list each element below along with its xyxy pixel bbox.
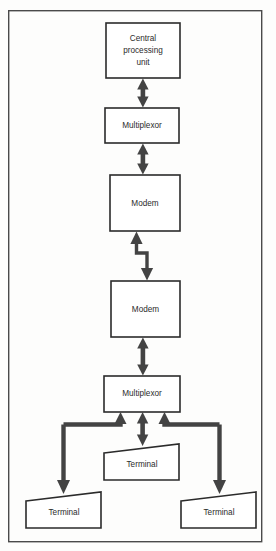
modem-bottom-label: Modem [132,305,159,314]
cpu-label-line-2: processing [123,46,163,55]
node-terminal-left: Terminal [26,492,101,528]
elbow-path-in [165,418,220,425]
terminal-left-label: Terminal [49,508,80,517]
arrow-head-up [159,412,171,424]
connector-multiplexor-top-to-modem-top [137,143,148,174]
terminal-center-label: Terminal [127,460,158,469]
network-topology-diagram: Central processing unit Multiplexor Mode… [0,0,276,551]
terminal-right-label: Terminal [204,508,235,517]
zigzag-path [137,240,148,271]
arrow-head-down [137,97,148,108]
arrow-head-down [137,365,148,376]
node-terminal-center: Terminal [104,444,179,480]
connector-modem-to-modem-link [130,232,153,281]
node-modem-top: Modem [110,175,180,231]
diagram-canvas: Central processing unit Multiplexor Mode… [0,0,276,551]
arrow-head-up [137,412,148,424]
modem-top-label: Modem [131,199,158,208]
connector-cpu-to-multiplexor-top [137,78,148,107]
cpu-label-line-1: Central [130,34,157,43]
node-terminal-right: Terminal [181,492,256,528]
node-multiplexor-bottom: Multiplexor [104,376,180,412]
arrow-head-up [137,143,148,154]
connector-modem-bottom-to-multiplexor-bottom [137,337,148,375]
multiplexor-top-label: Multiplexor [122,121,162,130]
arrow-head-up [137,78,148,89]
arrow-head-up [130,232,142,245]
connector-multiplexor-bottom-to-terminal-center [137,412,148,446]
arrow-head-down [137,164,148,175]
node-multiplexor-top: Multiplexor [105,108,179,143]
multiplexor-bottom-label: Multiplexor [122,389,162,398]
arrow-head-up [115,412,127,424]
arrow-head-down [57,480,70,494]
arrow-head-down [141,268,153,281]
arrow-head-down [213,480,226,494]
cpu-label-line-3: unit [136,58,150,67]
node-modem-bottom: Modem [111,281,180,337]
elbow-path-in [64,418,121,425]
node-cpu: Central processing unit [106,23,180,78]
arrow-head-up [137,337,148,348]
arrow-head-down [137,435,148,447]
